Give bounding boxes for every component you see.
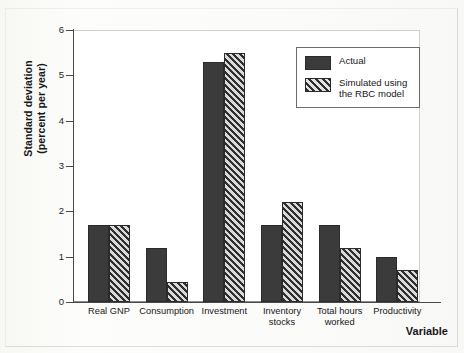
bar-simulated: [397, 270, 418, 302]
chart-page: Standard deviation (percent per year) 01…: [0, 0, 464, 353]
legend-item-actual: Actual: [305, 55, 411, 70]
y-tick-6: [66, 30, 74, 31]
bar-simulated: [167, 282, 188, 302]
bar-simulated: [109, 225, 130, 302]
bar-simulated: [224, 53, 245, 302]
y-tick-label-2: 2: [24, 205, 64, 216]
y-tick-label-0: 0: [24, 296, 64, 307]
hatched-swatch: [305, 78, 331, 92]
bar-group: [146, 30, 188, 302]
legend-item-simulated: Simulated using the RBC model: [305, 77, 411, 99]
solid-dark-swatch: [305, 56, 331, 70]
y-tick-0: [66, 302, 74, 303]
legend-label-simulated: Simulated using the RBC model: [339, 77, 407, 99]
x-category-label: Productivity: [358, 306, 436, 317]
y-tick-3: [66, 166, 74, 167]
y-tick-label-4: 4: [24, 115, 64, 126]
y-tick-label-3: 3: [24, 160, 64, 171]
x-axis-line: [73, 302, 441, 303]
y-tick-5: [66, 75, 74, 76]
x-axis-title: Variable: [406, 325, 448, 337]
bar-simulated: [282, 202, 303, 302]
y-tick-label-5: 5: [24, 69, 64, 80]
bar-actual: [146, 248, 167, 302]
y-tick-1: [66, 257, 74, 258]
legend-label-actual: Actual: [339, 55, 366, 66]
y-tick-4: [66, 121, 74, 122]
y-tick-2: [66, 211, 74, 212]
chart-legend: Actual Simulated using the RBC model: [296, 47, 420, 108]
bar-group: [88, 30, 130, 302]
bar-actual: [203, 62, 224, 302]
bar-actual: [376, 257, 397, 302]
bar-simulated: [340, 248, 361, 302]
bar-actual: [319, 225, 340, 302]
y-tick-label-6: 6: [24, 24, 64, 35]
y-tick-label-1: 1: [24, 251, 64, 262]
bar-actual: [261, 225, 282, 302]
bar-actual: [88, 225, 109, 302]
bar-group: [203, 30, 245, 302]
